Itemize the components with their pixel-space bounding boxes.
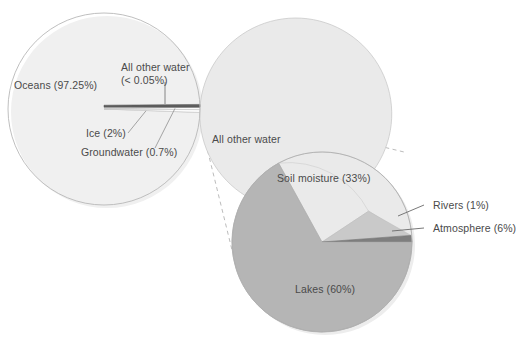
label-rivers: Rivers (1%) (433, 199, 489, 212)
label-all-other-water-left-line2: (< 0.05%) (121, 74, 168, 87)
label-oceans: Oceans (97.25%) (14, 79, 97, 92)
label-groundwater: Groundwater (0.7%) (81, 146, 177, 159)
label-soil-moisture: Soil moisture (33%) (277, 172, 371, 185)
left-pie-shadow (11, 16, 203, 208)
figure-canvas: Oceans (97.25%) All other water (< 0.05%… (0, 0, 523, 344)
label-all-other-water-right: All other water (212, 133, 281, 146)
label-all-other-water-left-line1: All other water (121, 61, 190, 74)
label-ice: Ice (2%) (86, 127, 126, 140)
label-lakes: Lakes (60%) (295, 283, 355, 296)
label-atmosphere: Atmosphere (6%) (433, 222, 516, 235)
pie-charts-svg (0, 0, 523, 344)
